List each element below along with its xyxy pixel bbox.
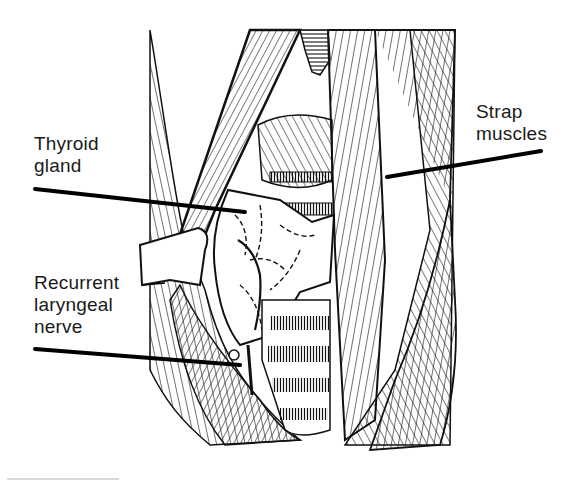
larynx-opening (300, 30, 330, 75)
leader-line-strap (387, 151, 541, 177)
label-thyroid-gland: Thyroid gland (34, 133, 99, 177)
label-strap-muscles: Strap muscles (476, 101, 547, 145)
label-nerve-line3: nerve (34, 316, 119, 338)
label-thyroid-line2: gland (34, 155, 99, 177)
label-nerve-line1: Recurrent (34, 272, 119, 294)
right-strap-muscle (328, 30, 385, 440)
label-nerve-line2: laryngeal (34, 294, 119, 316)
bottom-divider (7, 478, 119, 480)
label-strap-line2: muscles (476, 123, 547, 145)
thyroid-anatomy-illustration (0, 0, 586, 481)
label-thyroid-line1: Thyroid (34, 133, 99, 155)
label-recurrent-laryngeal-nerve: Recurrent laryngeal nerve (34, 272, 119, 338)
label-strap-line1: Strap (476, 101, 547, 123)
